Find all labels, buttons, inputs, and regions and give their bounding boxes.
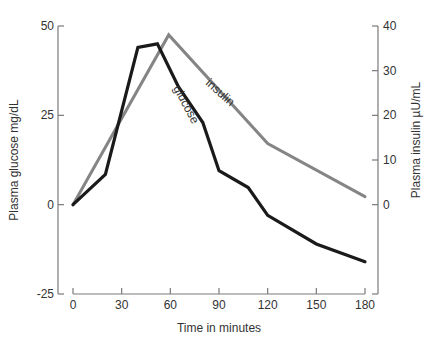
left-y-tick-label: 50 xyxy=(41,19,55,33)
x-tick-label: 150 xyxy=(306,298,326,312)
x-tick-label: 90 xyxy=(212,298,226,312)
insulin-series-label: insulin xyxy=(203,76,238,109)
x-tick-label: 30 xyxy=(115,298,129,312)
right-y-tick-label: 10 xyxy=(383,153,397,167)
right-y-tick-label: 0 xyxy=(383,198,390,212)
right-y-axis: 010203040 xyxy=(372,19,397,294)
x-tick-label: 60 xyxy=(164,298,178,312)
glucose-line xyxy=(73,44,365,262)
x-axis: 0306090120150180 xyxy=(70,288,376,312)
left-y-axis: -2502550 xyxy=(37,19,64,301)
left-y-axis-title: Plasma glucose mg/dL xyxy=(7,99,21,221)
right-y-tick-label: 40 xyxy=(383,19,397,33)
left-y-tick-label: -25 xyxy=(37,287,55,301)
chart: -2502550 010203040 0306090120150180 Time… xyxy=(0,0,438,346)
plot-lines xyxy=(73,35,365,262)
left-y-tick-label: 25 xyxy=(41,108,55,122)
x-tick-label: 180 xyxy=(355,298,375,312)
x-tick-label: 0 xyxy=(70,298,77,312)
right-y-axis-title: Plasma insulin µU/mL xyxy=(409,82,423,199)
right-y-tick-label: 30 xyxy=(383,64,397,78)
glucose-series-label: glucose xyxy=(170,83,202,126)
left-y-tick-label: 0 xyxy=(47,198,54,212)
insulin-line xyxy=(73,35,365,205)
x-axis-title: Time in minutes xyxy=(177,321,261,335)
right-y-tick-label: 20 xyxy=(383,108,397,122)
x-tick-label: 120 xyxy=(258,298,278,312)
